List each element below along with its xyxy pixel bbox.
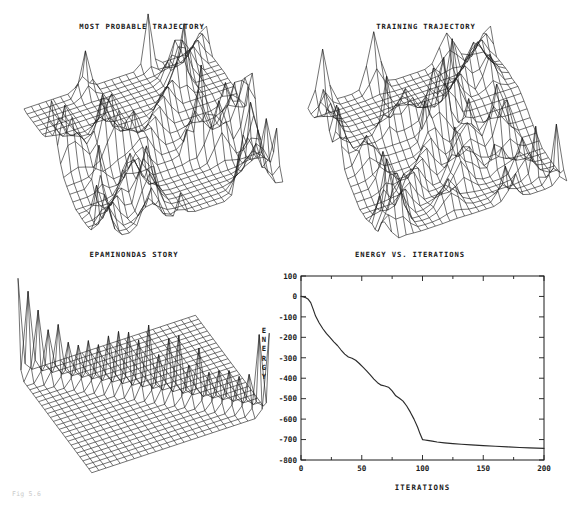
panel-training-trajectory: TRAINING TRAJECTORY <box>292 22 560 237</box>
y-tick-label: -600 <box>279 415 298 424</box>
energy-curve <box>301 296 544 448</box>
y-axis-label-letter: G <box>258 363 270 372</box>
mesh-col <box>119 77 195 211</box>
chart-x-axis-label: ITERATIONS <box>395 483 451 492</box>
panel-epaminondas-story: EPAMINONDAS STORY <box>8 250 260 475</box>
y-tick-label: 0 <box>292 292 297 301</box>
x-tick-label: 200 <box>537 464 551 473</box>
mesh-col <box>103 340 177 445</box>
surface-mesh-svg <box>292 34 560 234</box>
panel-energy-vs-iterations: ENERGY VS. ITERATIONS 1000-100-200-300-4… <box>256 250 562 495</box>
x-tick-label: 150 <box>476 464 490 473</box>
mesh-col <box>163 24 239 183</box>
surface-mesh-svg <box>8 262 260 467</box>
mesh-col <box>75 84 151 207</box>
mesh-row <box>100 116 283 235</box>
x-tick-label: 100 <box>416 464 430 473</box>
panel-title-training-trajectory: TRAINING TRAJECTORY <box>292 22 560 31</box>
x-tick-label: 0 <box>299 464 304 473</box>
mesh-col <box>125 339 199 438</box>
y-axis-label-letter: N <box>258 335 270 344</box>
y-tick-label: -800 <box>279 456 298 465</box>
mesh-row <box>94 128 277 225</box>
x-tick-label: 50 <box>357 464 367 473</box>
mesh-row <box>329 54 512 132</box>
y-axis-label-letter: R <box>258 354 270 363</box>
y-tick-label: -200 <box>279 333 298 342</box>
panel-title-energy-vs-iterations: ENERGY VS. ITERATIONS <box>276 250 544 259</box>
mesh-col <box>75 345 149 454</box>
y-axis-label-letter: Y <box>258 372 270 381</box>
surface-plot-training-trajectory <box>292 34 560 234</box>
surface-mesh-svg <box>8 34 276 234</box>
chart-frame <box>301 276 544 460</box>
mesh-col <box>330 85 406 235</box>
surface-plot-epaminondas-story <box>8 262 260 467</box>
y-tick-label: 100 <box>283 272 297 281</box>
y-axis-label-letter: E <box>258 344 270 353</box>
mesh-col <box>32 310 106 468</box>
mesh-col <box>425 39 501 202</box>
surface-plot-most-probable-trajectory <box>8 34 276 234</box>
panel-title-epaminondas-story: EPAMINONDAS STORY <box>8 250 260 259</box>
panel-title-most-probable-trajectory: MOST PROBABLE TRAJECTORY <box>8 22 276 31</box>
y-tick-label: -500 <box>279 394 298 403</box>
mesh-row <box>360 127 542 210</box>
mesh-col <box>199 34 275 183</box>
y-tick-label: -300 <box>279 354 298 363</box>
mesh-col <box>146 332 220 431</box>
mesh-row <box>55 93 238 139</box>
mesh-col <box>53 99 129 233</box>
mesh-col <box>439 47 515 188</box>
panel-most-probable-trajectory: MOST PROBABLE TRAJECTORY <box>8 22 276 237</box>
figure-page: MOST PROBABLE TRAJECTORY TRAINING TRAJEC… <box>0 0 568 505</box>
y-tick-label: -400 <box>279 374 298 383</box>
y-tick-label: -100 <box>279 313 298 322</box>
mesh-col <box>153 329 227 428</box>
chart-y-axis-label: ENERGY <box>258 326 270 381</box>
figure-caption: Fig 5.6 <box>12 490 41 498</box>
y-tick-label: -700 <box>279 435 298 444</box>
energy-line-chart: 1000-100-200-300-400-500-600-700-8000501… <box>256 250 562 490</box>
mesh-col <box>181 320 255 419</box>
y-axis-label-letter: E <box>258 326 270 335</box>
